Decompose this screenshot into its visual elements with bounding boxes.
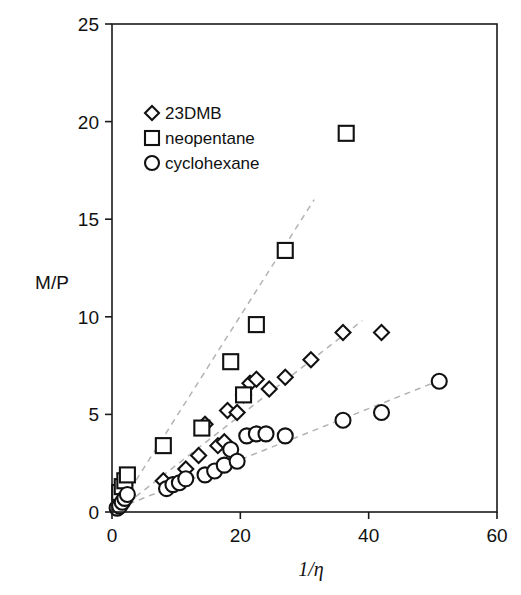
data-point-square bbox=[120, 467, 135, 482]
data-point-diamond bbox=[191, 448, 206, 463]
x-tick-label: 40 bbox=[358, 525, 379, 546]
y-tick-label: 5 bbox=[88, 404, 99, 425]
legend-label: neopentane bbox=[165, 129, 255, 148]
chart-page: 05101520250204060M/P1/η 23DMBneopentanec… bbox=[0, 0, 521, 595]
data-point-diamond bbox=[374, 325, 389, 340]
x-tick-label: 60 bbox=[486, 525, 507, 546]
legend-marker-square bbox=[145, 131, 159, 145]
data-point-square bbox=[194, 421, 209, 436]
data-point-circle bbox=[178, 471, 193, 486]
legend-label: cyclohexane bbox=[165, 154, 260, 173]
legend-item-neopentane: neopentane bbox=[145, 129, 255, 148]
data-point-square bbox=[223, 354, 238, 369]
data-point-circle bbox=[259, 426, 274, 441]
data-point-diamond bbox=[262, 382, 277, 397]
legend-label: 23DMB bbox=[165, 104, 222, 123]
data-point-circle bbox=[336, 413, 351, 428]
y-tick-label: 0 bbox=[88, 502, 99, 523]
data-point-circle bbox=[278, 428, 293, 443]
y-tick-label: 15 bbox=[78, 209, 99, 230]
data-point-square bbox=[278, 243, 293, 258]
data-point-square bbox=[236, 387, 251, 402]
data-point-square bbox=[339, 126, 354, 141]
x-tick-label: 20 bbox=[230, 525, 251, 546]
data-point-square bbox=[249, 317, 264, 332]
data-point-square bbox=[156, 438, 171, 453]
data-point-diamond bbox=[278, 370, 293, 385]
legend-item-cyclohexane: cyclohexane bbox=[145, 154, 260, 173]
x-axis-title: 1/η bbox=[298, 558, 324, 581]
legend-group: 23DMBneopentanecyclohexane bbox=[145, 104, 260, 173]
data-point-diamond bbox=[336, 325, 351, 340]
data-point-circle bbox=[374, 405, 389, 420]
data-points-group bbox=[110, 126, 447, 516]
y-tick-label: 20 bbox=[78, 112, 99, 133]
x-tick-label: 0 bbox=[107, 525, 118, 546]
axis-labels-group: 05101520250204060M/P1/η bbox=[35, 14, 507, 581]
data-point-circle bbox=[120, 487, 135, 502]
y-axis-title: M/P bbox=[35, 272, 69, 293]
legend-marker-diamond bbox=[145, 106, 159, 120]
scatter-chart: 05101520250204060M/P1/η 23DMBneopentanec… bbox=[0, 0, 521, 595]
data-point-circle bbox=[432, 374, 447, 389]
data-point-circle bbox=[230, 454, 245, 469]
legend-item-23DMB: 23DMB bbox=[145, 104, 222, 123]
y-tick-label: 25 bbox=[78, 14, 99, 35]
legend-marker-circle bbox=[145, 156, 159, 170]
y-tick-label: 10 bbox=[78, 307, 99, 328]
